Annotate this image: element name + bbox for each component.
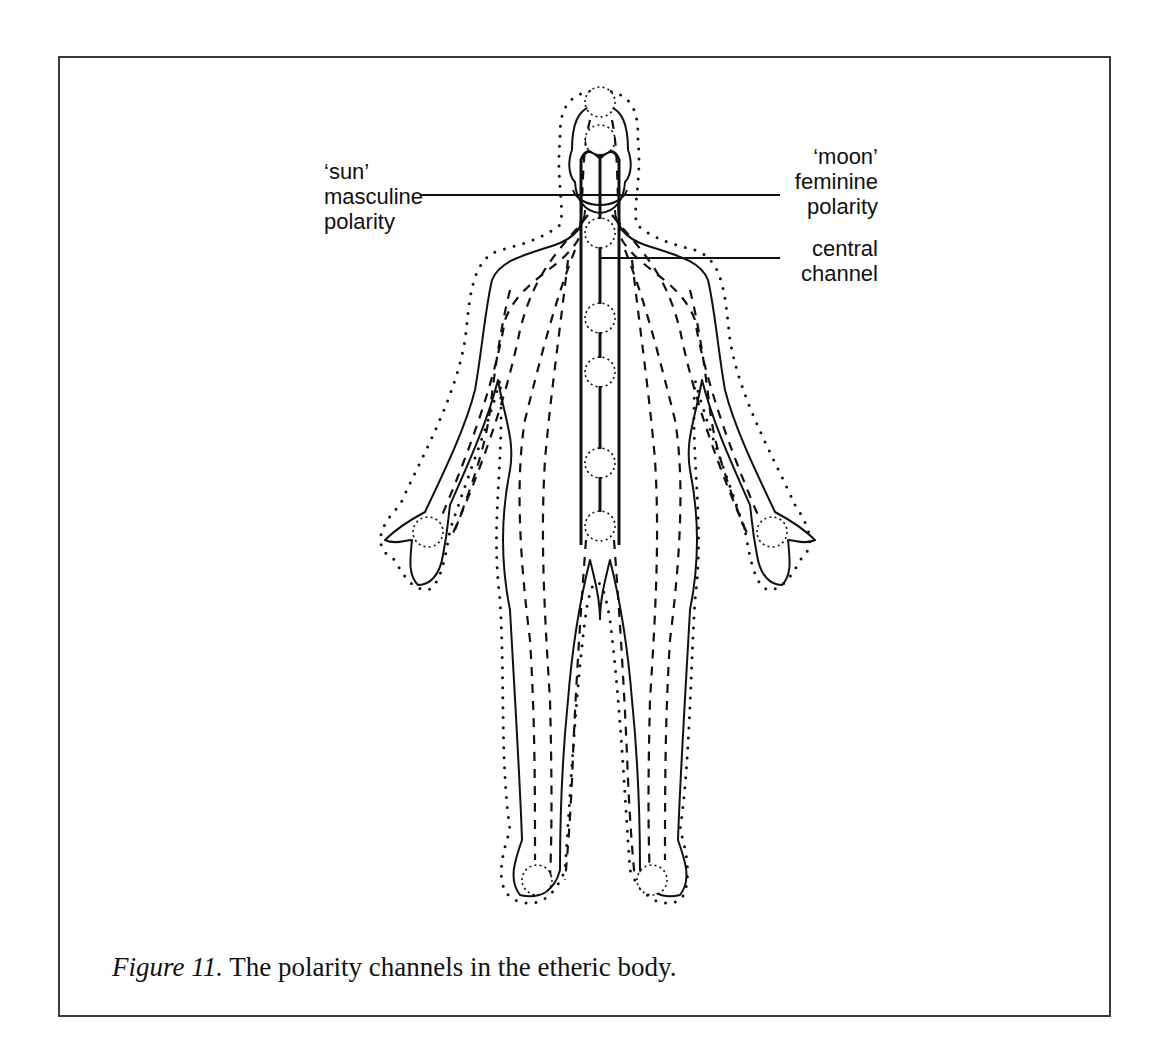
central-channel-label: central channel	[801, 236, 878, 286]
central-channel	[573, 145, 627, 545]
figure-number: Figure 11.	[112, 952, 223, 982]
caption-text: The polarity channels in the etheric bod…	[223, 952, 677, 982]
etheric-body-diagram	[0, 0, 1170, 1063]
moon-feminine-polarity-label: ‘moon’ feminine polarity	[795, 144, 878, 219]
figure-caption: Figure 11. The polarity channels in the …	[112, 952, 677, 983]
sun-masculine-polarity-label: ‘sun’ masculine polarity	[324, 159, 423, 234]
